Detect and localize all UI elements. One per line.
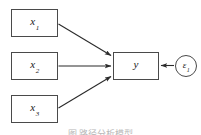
node-x1-label: x1 <box>30 16 38 30</box>
edge-x3-to-y <box>59 77 112 109</box>
node-x3-label: x3 <box>30 102 38 116</box>
node-y[interactable]: y <box>113 52 159 80</box>
node-epsilon1-label: ε1 <box>183 61 190 72</box>
node-x3[interactable]: x3 <box>11 95 58 123</box>
path-diagram-figure: x1 x2 x3 y ε1 图 路径分析模型 <box>0 0 201 135</box>
edge-x1-to-y <box>59 24 112 56</box>
node-x2-label: x2 <box>30 59 38 73</box>
node-epsilon1[interactable]: ε1 <box>175 55 197 77</box>
figure-caption: 图 路径分析模型 <box>0 129 201 135</box>
node-x1[interactable]: x1 <box>11 9 58 37</box>
node-x2[interactable]: x2 <box>11 52 58 80</box>
node-y-label: y <box>134 59 139 73</box>
